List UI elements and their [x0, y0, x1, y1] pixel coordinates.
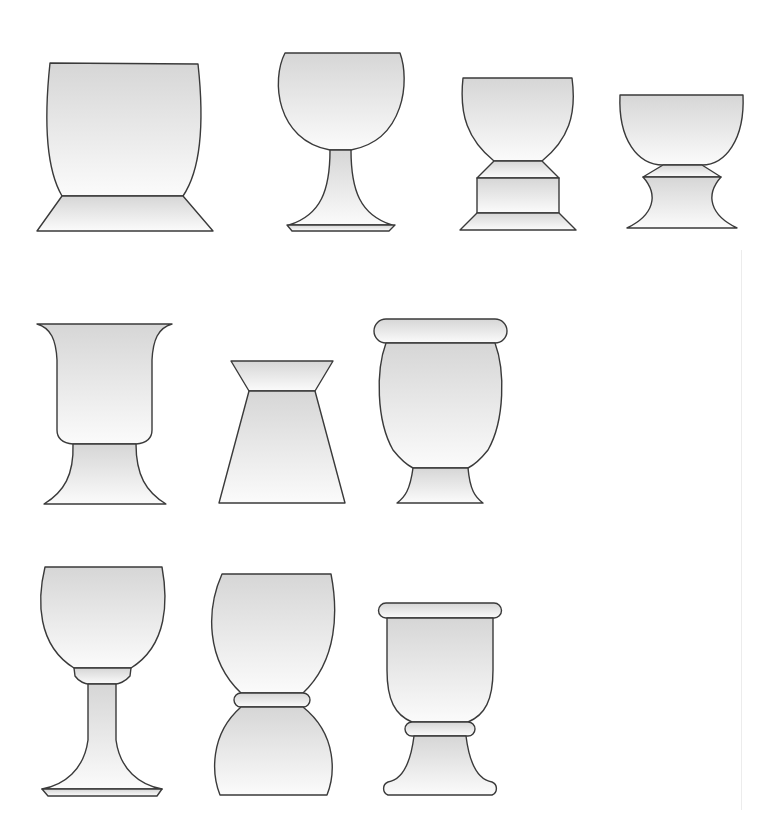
vessel-cup-on-stepped-pedestal [460, 78, 576, 230]
vessel-trumpet-vase [37, 324, 172, 504]
v2-part-0 [278, 53, 404, 150]
v9-part-1 [234, 693, 310, 707]
v4-part-0 [620, 95, 743, 165]
vessel-hourglass-trapezoid-vase [219, 361, 345, 503]
v5-part-0 [37, 324, 172, 444]
vessel-tumbler-vase-on-trapezoid-base [37, 63, 213, 231]
v7-part-2 [397, 468, 483, 503]
vessel-wine-goblet [278, 53, 404, 231]
v6-part-0 [231, 361, 333, 391]
v3-part-3 [460, 213, 576, 230]
v7-part-1 [379, 343, 502, 468]
vessel-illustration [0, 0, 784, 833]
v6-part-1 [219, 391, 345, 503]
v3-part-0 [462, 78, 573, 161]
v1-part-0 [47, 63, 201, 196]
v10-part-3 [384, 736, 497, 795]
v8-part-3 [42, 789, 162, 796]
v10-part-0 [379, 603, 502, 618]
v8-part-0 [41, 567, 165, 668]
v10-part-2 [405, 722, 475, 736]
v3-part-1 [477, 161, 559, 178]
vessel-chalice-with-knop-and-flared-foot [41, 567, 165, 796]
v9-part-0 [212, 574, 335, 693]
v5-part-1 [44, 444, 166, 504]
v8-part-1 [74, 668, 131, 684]
v1-part-1 [37, 196, 213, 231]
v3-part-2 [477, 178, 559, 213]
v8-part-2 [42, 684, 162, 789]
v4-part-1 [643, 165, 721, 177]
vessel-urn-with-rolled-rim [374, 319, 507, 503]
v7-part-0 [374, 319, 507, 343]
vessel-double-bulb-vase [212, 574, 335, 795]
v9-part-2 [215, 707, 332, 795]
v10-part-1 [387, 618, 493, 722]
vessel-bowl-on-spool-foot [620, 95, 743, 228]
v4-part-2 [627, 177, 737, 228]
v2-part-1 [289, 150, 392, 225]
v2-part-2 [287, 225, 395, 231]
vessel-cup-with-rolled-rim-and-bell-foot [379, 603, 502, 795]
